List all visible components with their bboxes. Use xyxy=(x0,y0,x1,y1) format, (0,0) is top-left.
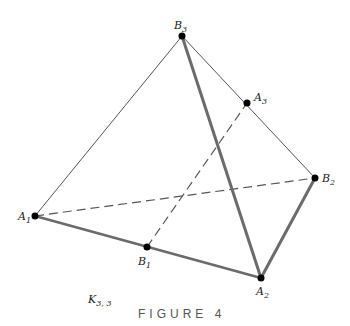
edge-b3-a1 xyxy=(35,36,182,216)
vertex-a1 xyxy=(32,213,39,220)
vertex-b1 xyxy=(144,244,151,251)
label-a2: A2 xyxy=(255,285,269,300)
figure-caption: FIGURE 4 xyxy=(138,307,225,321)
label-a3: A3 xyxy=(253,91,267,106)
vertex-b2 xyxy=(312,175,319,182)
k33-diagram: B3 A3 B2 A1 B1 A2 K3, 3 FIGURE 4 xyxy=(0,0,350,326)
edge-b2-a2 xyxy=(261,178,315,278)
label-b2: B2 xyxy=(321,172,335,187)
edge-a1-b2 xyxy=(35,178,315,216)
vertex-a3 xyxy=(244,100,251,107)
edge-b3-a2 xyxy=(182,36,261,278)
edge-b3-b2 xyxy=(182,36,315,178)
label-a1: A1 xyxy=(17,210,31,225)
vertex-a2 xyxy=(258,275,265,282)
graph-label: K3, 3 xyxy=(87,293,111,308)
label-b1: B1 xyxy=(137,255,151,270)
label-b3: B3 xyxy=(173,19,187,34)
edge-b1-a3 xyxy=(147,103,247,247)
